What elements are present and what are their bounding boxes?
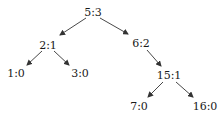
tree-edges <box>0 0 224 118</box>
node-3-0: 3:0 <box>71 68 89 79</box>
tree-diagram: 5:3 2:1 6:2 1:0 3:0 15:1 7:0 16:0 <box>0 0 224 118</box>
edge-n15-n7 <box>148 82 163 97</box>
node-7-0: 7:0 <box>130 101 148 112</box>
edge-n15-n16 <box>176 82 193 97</box>
node-6-2: 6:2 <box>132 38 150 49</box>
node-16-0: 16:0 <box>193 101 218 112</box>
node-5-3: 5:3 <box>84 7 102 18</box>
node-1-0: 1:0 <box>7 68 25 79</box>
edge-n5-n2 <box>60 18 86 35</box>
edge-n6-n15 <box>147 50 161 66</box>
edge-n2-n3 <box>54 51 69 65</box>
edge-n2-n1 <box>27 51 42 65</box>
node-2-1: 2:1 <box>39 40 57 51</box>
node-15-1: 15:1 <box>157 70 182 81</box>
edge-n5-n6 <box>100 18 128 34</box>
